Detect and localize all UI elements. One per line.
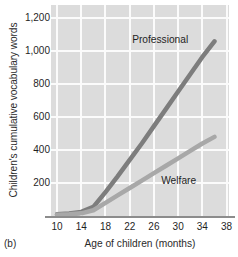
y-tick-600: 600 (14, 112, 50, 122)
y-tick-400: 400 (14, 145, 50, 155)
x-axis-line (45, 216, 235, 218)
x-axis-tick-labels: 1014182226303438 (51, 221, 229, 234)
y-tick-800: 800 (14, 79, 50, 89)
panel-tag: (b) (4, 238, 16, 249)
y-tick-1,000: 1,000 (14, 46, 50, 56)
series-label-professional: Professional (132, 34, 188, 45)
y-tick-200: 200 (14, 178, 50, 188)
line-professional (57, 41, 214, 214)
series-label-welfare: Welfare (161, 175, 196, 186)
y-tick-1,200: 1,200 (14, 13, 50, 23)
x-axis-title: Age of children (months) (45, 238, 235, 249)
x-tick-38: 38 (212, 221, 238, 233)
vocabulary-growth-chart: Children's cumulative vocabulary words 2… (0, 0, 238, 257)
y-axis-tick-labels: 2004006008001,0001,200 (14, 0, 50, 217)
plot-area: ProfessionalWelfare (51, 5, 229, 216)
